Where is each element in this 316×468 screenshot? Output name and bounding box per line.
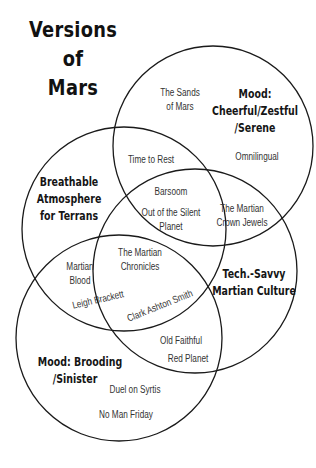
work-martian-blood: Martian Blood [60,260,101,288]
diagram-title: Versions of Mars [11,16,135,103]
work-crown-jewels-line2: Crown Jewels [212,216,271,230]
category-tech-savvy: Tech.-Savvy Martian Culture [209,266,299,300]
work-out-of-the-silent-planet: Out of the Silent Planet [134,206,208,234]
category-cheerful-line3: /Serene [210,120,300,137]
work-sands-of-mars: The Sands of Mars [155,86,204,114]
work-blood-line2: Blood [60,274,101,288]
work-sands-line1: The Sands [155,86,204,100]
category-breathable-line1: Breathable [34,174,105,191]
category-breathable-line3: for Terrans [34,208,105,225]
work-old-faithful: Old Faithful [152,334,209,348]
category-cheerful: Mood: Cheerful/Zestful /Serene [210,86,300,137]
category-cheerful-line2: Cheerful/Zestful [210,103,300,120]
work-martian-crown-jewels: The Martian Crown Jewels [212,202,271,230]
work-time-to-rest: Time to Rest [122,153,179,167]
work-sands-line2: of Mars [155,100,204,114]
work-duel-on-syrtis: Duel on Syrtis [102,383,168,397]
work-martian-chronicles: The Martian Chronicles [110,246,169,274]
work-blood-line1: Martian [60,260,101,274]
work-silent-planet-line1: Out of the Silent [134,206,208,220]
work-red-planet: Red Planet [159,352,216,366]
category-tech-line2: Martian Culture [209,283,299,300]
category-breathable-line2: Atmosphere [34,191,105,208]
venn-diagram: Versions of Mars Mood: Cheerful/Zestful … [0,0,316,468]
title-line-2: of [11,45,135,74]
work-crown-jewels-line1: The Martian [212,202,271,216]
work-chronicles-line1: The Martian [110,246,169,260]
category-brooding-line1: Mood: Brooding [34,354,126,371]
category-cheerful-line1: Mood: [210,86,300,103]
title-line-3: Mars [11,74,135,103]
work-no-man-friday: No Man Friday [93,408,159,422]
category-tech-line1: Tech.-Savvy [209,266,299,283]
work-silent-planet-line2: Planet [134,220,208,234]
title-line-1: Versions [11,16,135,45]
work-omnilingual: Omnilingual [228,150,285,164]
work-barsoom: Barsoom [142,185,199,199]
category-breathable: Breathable Atmosphere for Terrans [34,174,105,225]
work-chronicles-line2: Chronicles [110,260,169,274]
